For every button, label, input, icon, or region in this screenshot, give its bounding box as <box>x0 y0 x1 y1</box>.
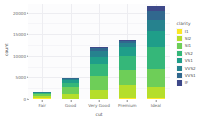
x-tick-label: Premium <box>118 103 137 108</box>
x-tick-mark <box>70 100 71 102</box>
legend-key-background <box>176 65 183 72</box>
legend-item-vs2[interactable]: VS2 <box>176 50 207 57</box>
legend-item-si1[interactable]: SI1 <box>176 42 207 49</box>
legend-swatch-vvs2 <box>177 66 182 71</box>
legend-label: SI2 <box>185 36 191 41</box>
legend-swatch-si1 <box>177 43 182 48</box>
bar-segment-vs1 <box>147 31 165 46</box>
legend-label: VS2 <box>185 51 193 56</box>
x-axis-tick-labels: FairGoodVery GoodPremiumIdeal <box>28 100 170 110</box>
legend-key-background <box>176 57 183 64</box>
y-axis-title: count <box>4 33 9 67</box>
bar-segment-vs1 <box>90 57 108 65</box>
legend-swatch-vs1 <box>177 58 182 63</box>
legend-label: I1 <box>185 29 189 34</box>
bar-segment-si1 <box>119 70 137 85</box>
legend-item-i1[interactable]: I1 <box>176 28 207 35</box>
bar-segment-si1 <box>147 69 165 87</box>
legend-item-vs1[interactable]: VS1 <box>176 57 207 64</box>
legend-item-vvs1[interactable]: VVS1 <box>176 72 207 79</box>
legend-swatch-vvs1 <box>177 73 182 78</box>
legend-label: VVS1 <box>185 73 196 78</box>
x-tick-mark <box>99 100 100 102</box>
x-tick-label: Ideal <box>151 103 161 108</box>
legend-swatch-if <box>177 80 182 85</box>
legend-item-si2[interactable]: SI2 <box>176 35 207 42</box>
x-tick-label: Good <box>65 103 76 108</box>
legend-items: I1SI2SI1VS2VS1VVS2VVS1IF <box>176 28 207 87</box>
legend-item-vvs2[interactable]: VVS2 <box>176 64 207 71</box>
legend-swatch-i1 <box>177 29 182 34</box>
bar-segment-i1 <box>147 98 165 99</box>
legend-label: VS1 <box>185 58 193 63</box>
bar-good <box>62 78 80 99</box>
x-tick-mark <box>42 100 43 102</box>
bar-ideal <box>147 6 165 99</box>
x-tick-mark <box>156 100 157 102</box>
bar-segment-vs2 <box>90 64 108 75</box>
bar-segment-vs2 <box>147 47 165 69</box>
x-tick-label: Very Good <box>88 103 110 108</box>
y-tick-label: 0 <box>23 97 26 102</box>
bar-segment-vvs1 <box>147 11 165 20</box>
bar-segment-i1 <box>33 98 51 99</box>
x-axis-title: cut <box>27 112 171 117</box>
x-tick-mark <box>127 100 128 102</box>
plot-panel <box>28 4 170 99</box>
y-axis-tick-labels: 05000100001500020000 <box>9 4 29 99</box>
legend: clarity I1SI2SI1VS2VS1VVS2VVS1IF <box>176 21 207 87</box>
legend-key-background <box>176 35 183 42</box>
legend-title: clarity <box>176 21 207 26</box>
bar-segment-si1 <box>62 87 80 94</box>
legend-key-background <box>176 72 183 79</box>
bar-segment-vs2 <box>119 56 137 70</box>
bar-segment-i1 <box>119 98 137 99</box>
bar-fair <box>33 92 51 99</box>
y-tick-label: 15000 <box>13 32 26 37</box>
legend-item-if[interactable]: IF <box>176 79 207 86</box>
legend-swatch-vs2 <box>177 51 182 56</box>
bar-premium <box>119 39 137 99</box>
legend-label: SI1 <box>185 43 191 48</box>
bar-series-group <box>28 4 170 99</box>
legend-key-background <box>176 43 183 50</box>
stacked-bar-chart: count 05000100001500020000 FairGoodVery … <box>0 0 207 120</box>
bar-very-good <box>90 47 108 99</box>
legend-swatch-si2 <box>177 36 182 41</box>
legend-key-background <box>176 28 183 35</box>
bar-segment-vs1 <box>119 47 137 56</box>
bar-segment-si2 <box>147 87 165 98</box>
bar-segment-si2 <box>90 90 108 99</box>
y-tick-label: 5000 <box>16 75 26 80</box>
legend-key-background <box>176 50 183 57</box>
y-tick-label: 20000 <box>13 10 26 15</box>
bar-segment-si1 <box>90 76 108 90</box>
legend-label: IF <box>185 80 189 85</box>
legend-label: VVS2 <box>185 66 196 71</box>
y-tick-label: 10000 <box>13 53 26 58</box>
x-tick-label: Fair <box>38 103 45 108</box>
bar-segment-si2 <box>119 85 137 98</box>
legend-key-background <box>176 80 183 87</box>
bar-segment-vvs2 <box>147 20 165 31</box>
